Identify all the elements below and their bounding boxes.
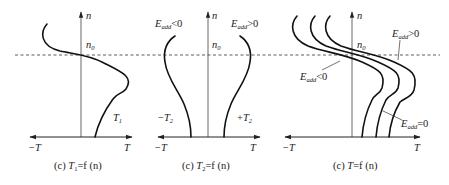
- axis-label-neg-t: −T: [282, 142, 296, 153]
- label-n0: n0: [86, 39, 95, 51]
- label-e-add-gt-0: Eadd>0: [391, 28, 419, 40]
- axis-label-t: T: [124, 142, 131, 153]
- label-e-add-lt-0: Eadd<0: [154, 18, 182, 30]
- label-n0: n0: [212, 39, 221, 51]
- label-e-add-lt-0: Eadd<0: [299, 71, 327, 83]
- caption-t-total: (c) T=f (n): [333, 160, 378, 172]
- leader-e-add-lt-0: [322, 61, 340, 70]
- label-e-add-gt-0: Eadd>0: [230, 18, 258, 30]
- caption-t2: (c) T2=f (n): [182, 160, 230, 172]
- axis-label-t: T: [414, 142, 421, 153]
- panel-t-total: n n0 −T T Eadd>0 Eadd<0 Eadd=0 (c) T=f (…: [282, 10, 428, 172]
- axis-label-n: n: [212, 10, 217, 21]
- label-e-add-eq-0: Eadd=0: [400, 118, 428, 130]
- axis-label-n: n: [357, 10, 362, 21]
- axis-label-t: T: [250, 142, 257, 153]
- panel-t2: n n0 −T T Eadd<0 Eadd>0 −T2 +T2 (c) T2=f…: [154, 10, 260, 172]
- axis-label-neg-t: −T: [154, 142, 168, 153]
- axis-label-n: n: [86, 10, 91, 21]
- leader-e-add-eq-0: [381, 110, 402, 120]
- curve-label-neg-t2: −T2: [158, 112, 174, 124]
- label-n0: n0: [357, 39, 366, 51]
- axis-label-neg-t: −T: [28, 142, 42, 153]
- panel-t1: n n0 −T T T1 (c) T1=f (n): [28, 10, 132, 172]
- leader-e-add-gt-0: [398, 40, 400, 60]
- curve-label-pos-t2: +T2: [237, 112, 253, 124]
- caption-t1: (c) T1=f (n): [54, 160, 102, 172]
- torque-speed-diagram: n n0 −T T T1 (c) T1=f (n) n n0 −T T Eadd…: [0, 0, 449, 185]
- curve-label-t1: T1: [113, 112, 122, 124]
